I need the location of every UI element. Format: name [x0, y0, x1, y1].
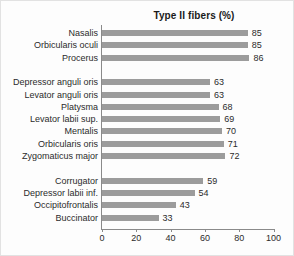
x-tick-label: 20 [121, 233, 151, 243]
x-tick-mark [274, 229, 275, 232]
x-tick-label: 40 [156, 233, 186, 243]
bar [102, 116, 220, 122]
bar [102, 104, 219, 110]
x-tick-mark [102, 229, 103, 232]
bar-value-label: 63 [214, 76, 224, 88]
bar-value-label: 68 [223, 101, 233, 113]
bar [102, 42, 248, 48]
bar [102, 190, 195, 196]
bar-value-label: 72 [229, 150, 239, 162]
x-tick-mark [205, 229, 206, 232]
x-tick-label: 100 [259, 233, 289, 243]
plot-area: Nasalis85Orbicularis oculi85Procerus86De… [1, 25, 294, 230]
bar-row: Orbicularis oris71 [1, 138, 294, 150]
bar-row: Mentalis70 [1, 125, 294, 137]
bar-row: Buccinator33 [1, 212, 294, 224]
bar-category-label: Buccinator [55, 212, 98, 224]
bar-category-label: Orbicularis oculi [34, 39, 98, 51]
bar-category-label: Levator labii sup. [30, 113, 98, 125]
bar-category-label: Mentalis [64, 125, 98, 137]
bar-category-label: Depressor anguli oris [13, 76, 98, 88]
bar-row: Levator labii sup.69 [1, 113, 294, 125]
x-axis-line [101, 229, 274, 230]
bar-value-label: 69 [224, 113, 234, 125]
bar-category-label: Platysma [61, 101, 98, 113]
bar-row: Procerus86 [1, 52, 294, 64]
bar-row: Occipitofrontalis43 [1, 199, 294, 211]
x-tick-mark [171, 229, 172, 232]
bar-row: Nasalis85 [1, 27, 294, 39]
bar-value-label: 63 [214, 89, 224, 101]
bar [102, 215, 159, 221]
bar-category-label: Depressor labii inf. [23, 187, 98, 199]
x-tick-label: 0 [87, 233, 117, 243]
bar-value-label: 70 [226, 125, 236, 137]
bar [102, 128, 222, 134]
bar [102, 153, 225, 159]
bar [102, 30, 248, 36]
x-tick-mark [239, 229, 240, 232]
x-tick-mark [136, 229, 137, 232]
bar-value-label: 71 [228, 138, 238, 150]
bar [102, 141, 224, 147]
bar-row: Platysma68 [1, 101, 294, 113]
bar-row: Orbicularis oculi85 [1, 39, 294, 51]
bar [102, 92, 210, 98]
bar-row: Depressor anguli oris63 [1, 76, 294, 88]
bar-row: Corrugator59 [1, 175, 294, 187]
bar [102, 202, 176, 208]
bar-value-label: 54 [199, 187, 209, 199]
bar-value-label: 33 [163, 212, 173, 224]
bar-category-label: Zygomaticus major [22, 150, 98, 162]
bar [102, 79, 210, 85]
bar [102, 55, 249, 61]
chart-title: Type II fibers (%) [101, 9, 287, 23]
x-tick-label: 60 [190, 233, 220, 243]
bar-value-label: 85 [252, 39, 262, 51]
bar-category-label: Corrugator [55, 175, 98, 187]
bar-category-label: Orbicularis oris [38, 138, 98, 150]
bar [102, 178, 203, 184]
bar-category-label: Occipitofrontalis [34, 199, 98, 211]
bar-value-label: 59 [207, 175, 217, 187]
x-tick-label: 80 [224, 233, 254, 243]
bar-row: Levator anguli oris63 [1, 89, 294, 101]
bar-value-label: 85 [252, 27, 262, 39]
bar-category-label: Nasalis [68, 27, 98, 39]
bar-row: Zygomaticus major72 [1, 150, 294, 162]
bar-category-label: Levator anguli oris [24, 89, 98, 101]
chart-figure: Type II fibers (%) Nasalis85Orbicularis … [0, 0, 294, 256]
bar-category-label: Procerus [62, 52, 98, 64]
bar-value-label: 86 [253, 52, 263, 64]
bar-row: Depressor labii inf.54 [1, 187, 294, 199]
bar-value-label: 43 [180, 199, 190, 211]
